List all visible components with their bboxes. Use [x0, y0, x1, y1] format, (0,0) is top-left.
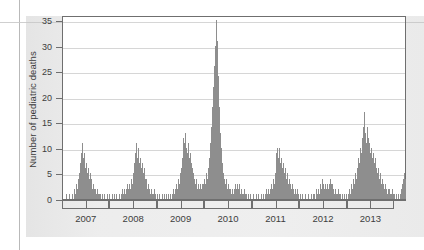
- x-tick-label: 2013: [360, 213, 381, 224]
- x-tick-label: 2010: [217, 213, 238, 224]
- x-midpoint-tick: [276, 201, 277, 209]
- bar: [344, 194, 345, 199]
- bar: [250, 194, 251, 199]
- x-midpoint-tick: [181, 201, 182, 209]
- bar: [405, 179, 406, 199]
- x-axis-brackets: [62, 201, 406, 210]
- bar: [346, 194, 347, 199]
- y-tick-label: 30: [28, 42, 52, 52]
- x-midpoint-tick: [323, 201, 324, 209]
- bar: [396, 194, 397, 199]
- bar: [157, 194, 158, 199]
- bar: [300, 194, 301, 199]
- bar: [170, 194, 171, 199]
- bar: [305, 194, 306, 199]
- x-midpoint-tick: [86, 201, 87, 209]
- bar: [159, 194, 160, 199]
- bar: [119, 194, 120, 199]
- bar: [246, 194, 247, 199]
- bar: [109, 194, 110, 199]
- bar: [313, 194, 314, 199]
- bar: [72, 194, 73, 199]
- bar: [104, 194, 105, 199]
- bar: [112, 194, 113, 199]
- bar: [314, 194, 315, 199]
- x-tick-label: 2007: [75, 213, 96, 224]
- plot-area: [62, 16, 406, 200]
- bar: [164, 194, 165, 199]
- y-tick-label: 0: [28, 195, 52, 205]
- x-midpoint-tick: [228, 201, 229, 209]
- bar: [398, 194, 399, 199]
- bar-series: [63, 17, 405, 199]
- bar: [114, 194, 115, 199]
- x-tick-label: 2008: [123, 213, 144, 224]
- y-tick-label: 35: [28, 16, 52, 26]
- bar: [311, 194, 312, 199]
- bar: [69, 194, 70, 199]
- bar: [298, 194, 299, 199]
- y-tick-label: 15: [28, 118, 52, 128]
- bar: [102, 194, 103, 199]
- x-tick-label: 2012: [312, 213, 333, 224]
- bar: [394, 194, 395, 199]
- bar: [261, 194, 262, 199]
- x-tick-label: 2009: [170, 213, 191, 224]
- y-tick-label: 20: [28, 93, 52, 103]
- bar: [107, 194, 108, 199]
- bar: [302, 194, 303, 199]
- bar: [342, 194, 343, 199]
- bar: [162, 194, 163, 199]
- bar: [253, 194, 254, 199]
- bar: [263, 194, 264, 199]
- bar: [308, 194, 309, 199]
- bar: [155, 194, 156, 199]
- pediatric-deaths-chart: Number of pediatric deaths 0510152025303…: [0, 0, 424, 250]
- bar: [100, 194, 101, 199]
- y-axis-ticks: 05101520253035: [0, 0, 62, 250]
- y-tick-label: 10: [28, 144, 52, 154]
- y-tick-label: 25: [28, 67, 52, 77]
- x-tick-label: 2011: [265, 213, 285, 224]
- y-tick-label: 5: [28, 169, 52, 179]
- bar: [248, 194, 249, 199]
- bar: [116, 194, 117, 199]
- x-midpoint-tick: [133, 201, 134, 209]
- bar: [166, 194, 167, 199]
- bar: [66, 194, 67, 199]
- bar: [168, 194, 169, 199]
- x-midpoint-tick: [370, 201, 371, 209]
- bar: [340, 194, 341, 199]
- bar: [256, 194, 257, 199]
- bar: [258, 194, 259, 199]
